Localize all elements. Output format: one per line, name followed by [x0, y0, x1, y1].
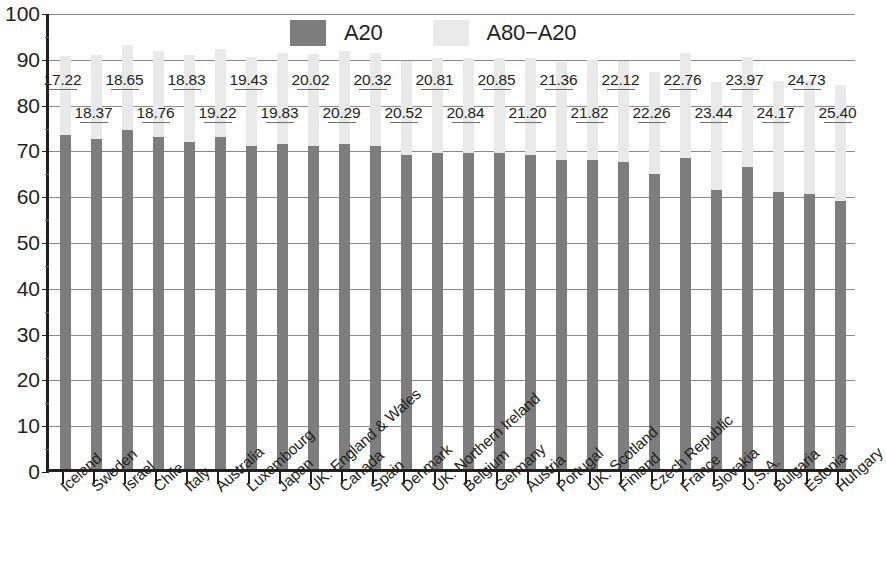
value-label-underline [700, 122, 728, 123]
value-label-underline [173, 89, 201, 90]
bar-segment-a20 [184, 142, 195, 469]
gridline [49, 60, 855, 61]
y-axis-minor-tick [45, 174, 49, 175]
bar-value-label: 23.44 [692, 105, 736, 121]
value-label-underline [328, 122, 356, 123]
bar-segment-a20 [401, 155, 412, 469]
value-label-underline [235, 89, 263, 90]
value-label-underline [793, 89, 821, 90]
y-axis-tick-label: 70 [0, 140, 40, 161]
y-axis-tick [42, 243, 49, 244]
bar-value-label: 20.84 [444, 105, 488, 121]
y-axis-minor-tick [45, 449, 49, 450]
y-axis-tick [42, 289, 49, 290]
bar-segment-a20 [308, 146, 319, 469]
value-label-underline [421, 89, 449, 90]
chart-legend: A20 A80−A20 [290, 16, 626, 50]
y-axis-tick-label: 100 [0, 3, 40, 24]
bar-segment-a20 [742, 167, 753, 469]
bar-segment-a20 [215, 137, 226, 469]
bar-value-label: 18.83 [165, 72, 209, 88]
bar-segment-a20 [91, 139, 102, 469]
y-axis-tick-label: 10 [0, 415, 40, 436]
gridline [49, 197, 855, 198]
value-label-underline [514, 122, 542, 123]
y-axis-tick [42, 106, 49, 107]
bar-segment-a20 [246, 146, 257, 469]
bar-segment-a20 [618, 162, 629, 469]
legend-label-a20: A20 [344, 20, 383, 46]
value-label-underline [824, 122, 852, 123]
bar-segment-a20 [680, 158, 691, 469]
bar-segment-a20 [339, 144, 350, 469]
gridline [49, 289, 855, 290]
value-label-underline [359, 89, 387, 90]
value-label-underline [49, 89, 77, 90]
value-label-underline [204, 122, 232, 123]
y-axis-tick-label: 80 [0, 95, 40, 116]
value-label-underline [80, 122, 108, 123]
value-label-underline [669, 89, 697, 90]
value-label-underline [483, 89, 511, 90]
bar-value-label: 24.73 [785, 72, 829, 88]
value-label-underline [638, 122, 666, 123]
y-axis-tick [42, 197, 49, 198]
gridline [49, 335, 855, 336]
bar-value-label: 17.22 [41, 72, 85, 88]
bar-segment-a20 [525, 155, 536, 469]
value-label-underline [297, 89, 325, 90]
legend-item-a80-a20: A80−A20 [433, 20, 627, 46]
y-axis-tick-label: 30 [0, 324, 40, 345]
bar-value-label: 19.83 [258, 105, 302, 121]
y-axis-tick [42, 335, 49, 336]
bar-value-label: 21.36 [537, 72, 581, 88]
y-axis-minor-tick [45, 312, 49, 313]
y-axis-tick [42, 14, 49, 15]
bar-value-label: 22.26 [630, 105, 674, 121]
y-axis-tick [42, 380, 49, 381]
value-label-underline [762, 122, 790, 123]
legend-label-a80-a20: A80−A20 [487, 20, 577, 46]
y-axis-minor-tick [45, 403, 49, 404]
bar-value-label: 19.22 [196, 105, 240, 121]
bar-value-label: 20.29 [320, 105, 364, 121]
bar-value-label: 20.32 [351, 72, 395, 88]
y-axis-minor-tick [45, 37, 49, 38]
gridline [49, 14, 855, 15]
y-axis-minor-tick [45, 129, 49, 130]
y-axis-tick [42, 60, 49, 61]
y-axis-tick-label: 0 [0, 461, 40, 482]
bar-value-label: 18.65 [103, 72, 147, 88]
y-axis-minor-tick [45, 358, 49, 359]
bar-segment-a20 [153, 137, 164, 469]
bar-value-label: 20.02 [289, 72, 333, 88]
bar-value-label: 24.17 [754, 105, 798, 121]
bar-value-label: 18.76 [134, 105, 178, 121]
value-label-underline [266, 122, 294, 123]
value-label-underline [607, 89, 635, 90]
value-label-underline [111, 89, 139, 90]
gridline [49, 243, 855, 244]
y-axis-tick-label: 90 [0, 49, 40, 70]
bar-segment-a20 [804, 194, 815, 469]
bar-value-label: 20.85 [475, 72, 519, 88]
bar-value-label: 21.20 [506, 105, 550, 121]
y-axis-tick-label: 50 [0, 232, 40, 253]
bar-segment-a20 [773, 192, 784, 469]
y-axis-minor-tick [45, 266, 49, 267]
gridline [49, 151, 855, 152]
gridline [49, 380, 855, 381]
bar-value-label: 19.43 [227, 72, 271, 88]
value-label-underline [390, 122, 418, 123]
value-label-underline [576, 122, 604, 123]
y-axis-tick-label: 20 [0, 369, 40, 390]
bar-segment-a20 [556, 160, 567, 469]
bar-segment-a20 [587, 160, 598, 469]
bar-segment-a20 [277, 144, 288, 469]
value-label-underline [545, 89, 573, 90]
bar-value-label: 23.97 [723, 72, 767, 88]
y-axis-minor-tick [45, 220, 49, 221]
bar-value-label: 20.52 [382, 105, 426, 121]
legend-item-a20: A20 [290, 20, 433, 46]
